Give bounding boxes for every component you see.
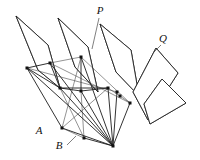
label-b: B — [56, 139, 63, 151]
vertex-v-mid-center — [80, 90, 83, 93]
geometric-figure: PQAB — [0, 0, 200, 160]
label-p: P — [96, 4, 104, 16]
figure-canvas: PQAB — [0, 0, 200, 160]
vertex-v-mid-left — [59, 87, 62, 90]
vertex-v-upper-mid-left — [49, 62, 52, 65]
vertex-v-right-upper — [116, 91, 119, 94]
vertex-v-lower-left — [61, 127, 64, 130]
vertex-v-mid-right — [107, 87, 110, 90]
vertex-v-apex — [112, 145, 115, 148]
vertex-v-top-center — [80, 56, 83, 59]
vertex-v-lower-mid — [83, 137, 86, 140]
vertex-v-right-lower — [119, 95, 122, 98]
vertex-v-far-right — [129, 102, 132, 105]
label-q: Q — [159, 32, 167, 44]
label-a: A — [35, 124, 43, 136]
vertex-v-upper-left — [26, 67, 29, 70]
